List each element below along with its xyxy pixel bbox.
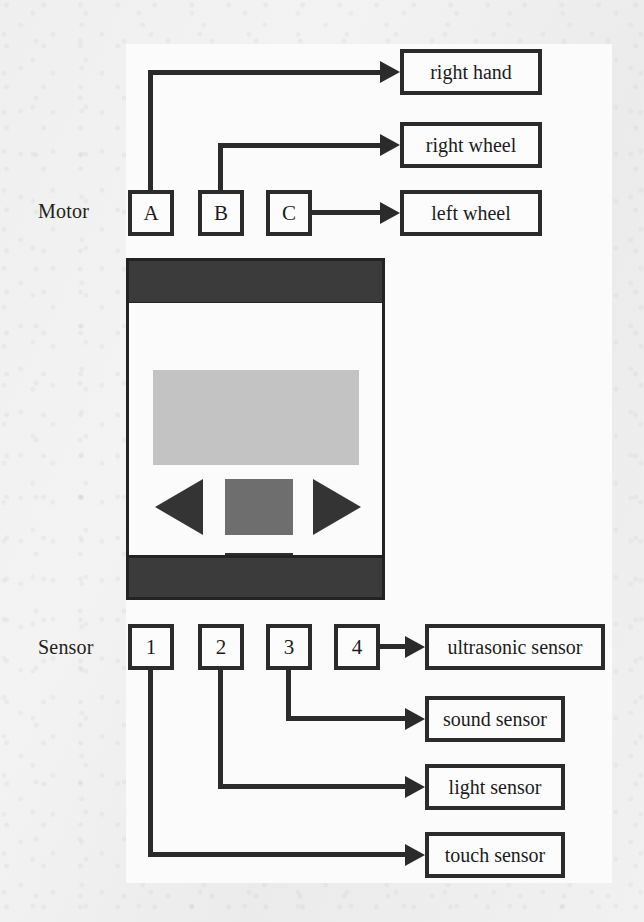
motor-port-c[interactable]: C (266, 190, 312, 236)
connector-2-light-horizontal (218, 784, 408, 789)
sensor-port-2[interactable]: 2 (198, 624, 244, 670)
brick-center-button[interactable] (225, 479, 293, 535)
arrowhead-3-sound (405, 708, 425, 730)
sensor-port-4-label: 4 (352, 637, 363, 658)
target-right-wheel[interactable]: right wheel (400, 122, 542, 168)
target-ultrasonic-sensor[interactable]: ultrasonic sensor (425, 624, 605, 670)
sensor-port-3[interactable]: 3 (266, 624, 312, 670)
sensor-port-1-label: 1 (146, 637, 157, 658)
brick-body (126, 303, 385, 557)
target-sound-sensor-label: sound sensor (443, 709, 547, 729)
connector-2-light-vertical (218, 670, 223, 784)
brick-lcd-screen (153, 370, 359, 465)
brick-top-band (126, 258, 385, 305)
target-ultrasonic-sensor-label: ultrasonic sensor (448, 637, 583, 657)
target-left-wheel[interactable]: left wheel (400, 190, 542, 236)
connector-a-right-hand-horizontal (148, 70, 383, 75)
target-sound-sensor[interactable]: sound sensor (425, 696, 565, 742)
nxt-brick-illustration (126, 258, 385, 600)
diagram-page: Motor A B C right hand right wheel left … (0, 0, 644, 922)
connector-b-right-wheel-vertical (218, 143, 223, 192)
motor-port-b[interactable]: B (198, 190, 244, 236)
arrowhead-4-ultrasonic (405, 636, 425, 658)
motor-port-c-label: C (282, 203, 296, 224)
sensor-group-label: Sensor (38, 636, 94, 659)
connector-3-sound-vertical (286, 670, 291, 716)
arrowhead-1-touch (405, 844, 425, 866)
target-light-sensor-label: light sensor (449, 777, 542, 797)
motor-port-a[interactable]: A (128, 190, 174, 236)
arrowhead-c-left-wheel (380, 202, 400, 224)
sensor-port-1[interactable]: 1 (128, 624, 174, 670)
target-light-sensor[interactable]: light sensor (425, 764, 565, 810)
motor-port-b-label: B (214, 203, 228, 224)
connector-1-touch-vertical (148, 670, 153, 852)
brick-right-arrow-button[interactable] (313, 479, 361, 535)
sensor-port-3-label: 3 (284, 637, 295, 658)
motor-port-a-label: A (143, 203, 158, 224)
motor-group-label: Motor (38, 200, 89, 223)
target-touch-sensor-label: touch sensor (445, 845, 546, 865)
arrowhead-2-light (405, 776, 425, 798)
connector-4-ultrasonic-horizontal (380, 644, 408, 649)
target-left-wheel-label: left wheel (431, 203, 510, 223)
arrowhead-a-right-hand (380, 61, 400, 83)
target-right-hand[interactable]: right hand (400, 49, 542, 95)
target-right-hand-label: right hand (430, 62, 512, 82)
sensor-port-4[interactable]: 4 (334, 624, 380, 670)
brick-left-arrow-button[interactable] (155, 479, 203, 535)
connector-a-right-hand-vertical (148, 70, 153, 192)
connector-3-sound-horizontal (286, 716, 408, 721)
target-right-wheel-label: right wheel (426, 135, 517, 155)
brick-bottom-band (126, 555, 385, 600)
connector-c-left-wheel-horizontal (312, 210, 383, 215)
arrowhead-b-right-wheel (380, 134, 400, 156)
connector-1-touch-horizontal (148, 852, 408, 857)
connector-b-right-wheel-horizontal (218, 143, 383, 148)
target-touch-sensor[interactable]: touch sensor (425, 832, 565, 878)
sensor-port-2-label: 2 (216, 637, 227, 658)
